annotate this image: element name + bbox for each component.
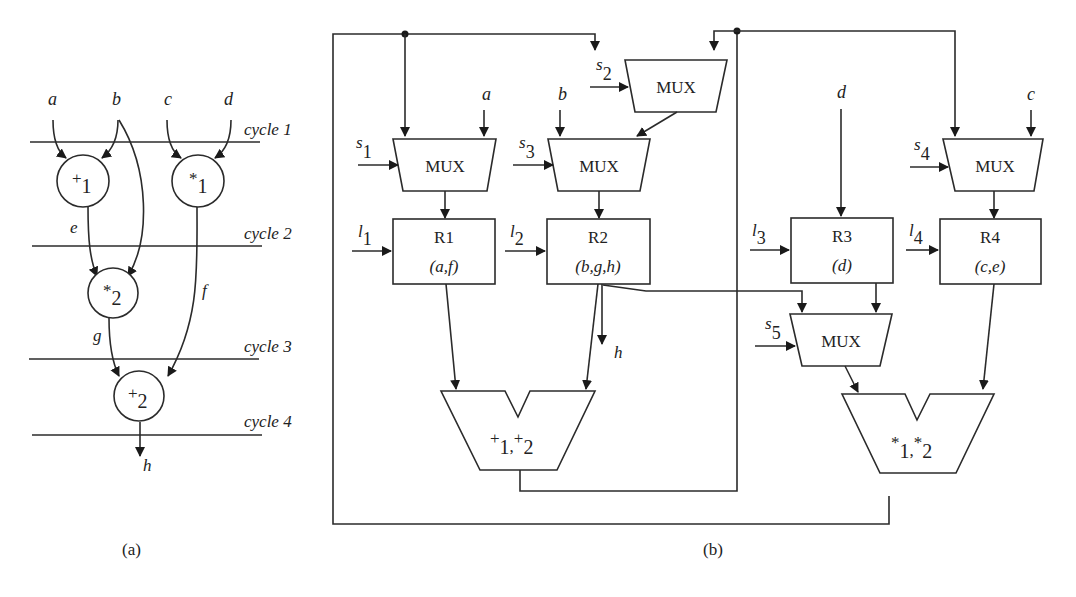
edge-label-e: e (70, 218, 78, 237)
alu-adder: +1,+2 (441, 391, 595, 470)
figure-b-datapath: MUX s2 a b d c MUX s1 MUX s3 (333, 28, 1043, 560)
mux-s1: MUX s1 (356, 133, 496, 191)
svg-text:(a,f): (a,f) (430, 257, 459, 276)
output-label-h: h (614, 343, 623, 362)
svg-text:MUX: MUX (579, 157, 619, 176)
svg-text:MUX: MUX (425, 157, 465, 176)
svg-text:R4: R4 (980, 228, 1000, 247)
diagram-canvas: cycle 1 cycle 2 cycle 3 cycle 4 a b c d … (0, 0, 1076, 597)
wire-r2-to-mux5 (603, 285, 802, 312)
cycle-label-3: cycle 3 (244, 337, 292, 356)
register-r4: R4 (c,e) l4 (906, 219, 1041, 284)
svg-text:MUX: MUX (821, 332, 861, 351)
register-r1: R1 (a,f) l1 (352, 219, 495, 284)
edge-label-g: g (93, 326, 102, 345)
load-label-l1: l1 (358, 222, 372, 249)
edge-b-to-mul2 (119, 120, 144, 276)
select-label-s5: s5 (765, 314, 781, 343)
wire-addfb-to-mux2 (714, 31, 737, 50)
input-b: b (558, 84, 567, 104)
wire-addfb-to-mux4 (737, 31, 955, 136)
alu-multiplier: *1,*2 (842, 394, 994, 473)
edge-g (109, 318, 119, 376)
edge-e (88, 207, 97, 276)
wire-r1-to-adder (446, 284, 456, 389)
svg-text:MUX: MUX (656, 78, 696, 97)
wire-r2-to-adder (586, 284, 598, 389)
node-mul1: *1 (172, 155, 224, 207)
svg-text:(c,e): (c,e) (975, 257, 1006, 276)
input-label-c: c (164, 89, 172, 109)
edge-b-to-add1 (102, 120, 118, 158)
select-label-s1: s1 (356, 133, 372, 162)
mux-s2: MUX s2 (590, 55, 727, 112)
input-d: d (837, 82, 847, 102)
load-label-l4: l4 (909, 221, 923, 248)
load-label-l3: l3 (752, 221, 766, 248)
input-label-a: a (48, 89, 57, 109)
svg-text:R3: R3 (832, 227, 852, 246)
svg-text:R1: R1 (434, 228, 454, 247)
mux-s4: MUX s4 (910, 135, 1043, 191)
edge-d-to-mul1 (215, 120, 231, 158)
svg-text:(b,g,h): (b,g,h) (575, 257, 621, 276)
select-label-s4: s4 (914, 135, 930, 164)
edge-f (168, 207, 197, 376)
edge-c-to-mul1 (167, 120, 181, 158)
input-label-d: d (224, 89, 234, 109)
node-mul2: *2 (88, 268, 138, 318)
caption-a: (a) (122, 540, 141, 559)
cycle-label-4: cycle 4 (244, 412, 292, 431)
select-label-s2: s2 (596, 55, 612, 84)
caption-b: (b) (703, 540, 723, 559)
edge-label-h: h (143, 456, 152, 475)
figure-a-dfg: cycle 1 cycle 2 cycle 3 cycle 4 a b c d … (29, 89, 292, 559)
edge-label-f: f (202, 281, 209, 300)
svg-text:R2: R2 (588, 228, 608, 247)
register-r2: R2 (b,g,h) l2 (505, 219, 650, 284)
cycle-label-1: cycle 1 (244, 120, 292, 139)
input-label-b: b (112, 89, 121, 109)
input-a: a (482, 84, 491, 104)
mux-s3: MUX s3 (513, 133, 650, 191)
select-label-s3: s3 (519, 133, 535, 162)
wire-mux5-to-multiplier (845, 366, 858, 392)
svg-text:MUX: MUX (975, 157, 1015, 176)
wire-mux2-to-mux3 (637, 112, 677, 136)
input-c: c (1027, 84, 1035, 104)
edge-a-to-add1 (53, 120, 66, 158)
wire-r4-to-multiplier (983, 284, 994, 389)
svg-text:(d): (d) (832, 256, 852, 275)
register-r3: R3 (d) l3 (750, 218, 893, 283)
mux-s5: MUX s5 (755, 314, 892, 366)
load-label-l2: l2 (510, 222, 524, 249)
node-add1: +1 (57, 155, 109, 207)
cycle-label-2: cycle 2 (244, 224, 292, 243)
node-add2: +2 (114, 371, 164, 421)
